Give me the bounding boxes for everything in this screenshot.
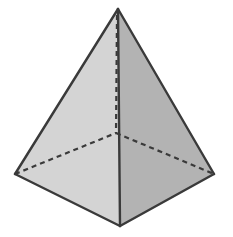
left-face xyxy=(15,9,120,226)
right-face xyxy=(118,9,214,226)
pyramid-svg xyxy=(0,0,233,237)
pyramid-diagram xyxy=(0,0,233,237)
